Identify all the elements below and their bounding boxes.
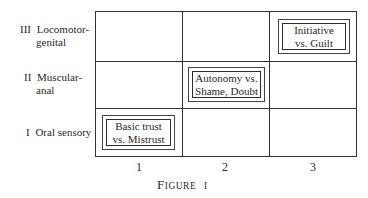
cell-text-line1: Basic trust bbox=[113, 120, 165, 133]
row-label-ii: II Muscular- anal bbox=[24, 71, 82, 97]
grid-divider bbox=[269, 12, 270, 156]
grid-divider bbox=[182, 12, 183, 156]
column-number-1: 1 bbox=[129, 160, 149, 175]
caption-initial: F bbox=[157, 177, 165, 192]
cell-text-line1: Initiative bbox=[294, 24, 334, 37]
cell-initiative-vs-guilt: Initiative vs. Guilt bbox=[282, 23, 346, 50]
row-label-line1: Locomotor- bbox=[37, 23, 89, 35]
row-label-line1: Oral sensory bbox=[35, 126, 91, 138]
grid-divider bbox=[96, 61, 356, 62]
caption-number: I bbox=[204, 181, 208, 191]
row-label-line1: Muscular- bbox=[37, 71, 82, 83]
row-label-line2: anal bbox=[36, 84, 54, 96]
figure-caption: Figure I bbox=[157, 177, 208, 193]
grid-divider bbox=[96, 108, 356, 109]
cell-text-line2: vs. Mistrust bbox=[113, 133, 165, 146]
row-label-line2: genital bbox=[36, 36, 66, 48]
row-numeral: I bbox=[26, 126, 30, 138]
cell-text-line2: vs. Guilt bbox=[294, 37, 334, 50]
row-label-i: I Oral sensory bbox=[26, 126, 91, 139]
row-numeral: II bbox=[24, 71, 31, 83]
cell-autonomy-vs-shame-doubt: Autonomy vs. Shame, Doubt bbox=[192, 71, 261, 98]
cell-basic-trust-vs-mistrust: Basic trust vs. Mistrust bbox=[106, 119, 171, 146]
row-numeral: III bbox=[20, 23, 31, 35]
row-label-iii: III Locomotor- genital bbox=[20, 23, 89, 49]
cell-text-line2: Shame, Doubt bbox=[195, 85, 258, 98]
column-number-3: 3 bbox=[303, 160, 323, 175]
cell-text-line1: Autonomy vs. bbox=[195, 72, 258, 85]
column-number-2: 2 bbox=[215, 160, 235, 175]
caption-rest: igure bbox=[165, 181, 197, 191]
cropped-text-above bbox=[0, 0, 368, 1]
